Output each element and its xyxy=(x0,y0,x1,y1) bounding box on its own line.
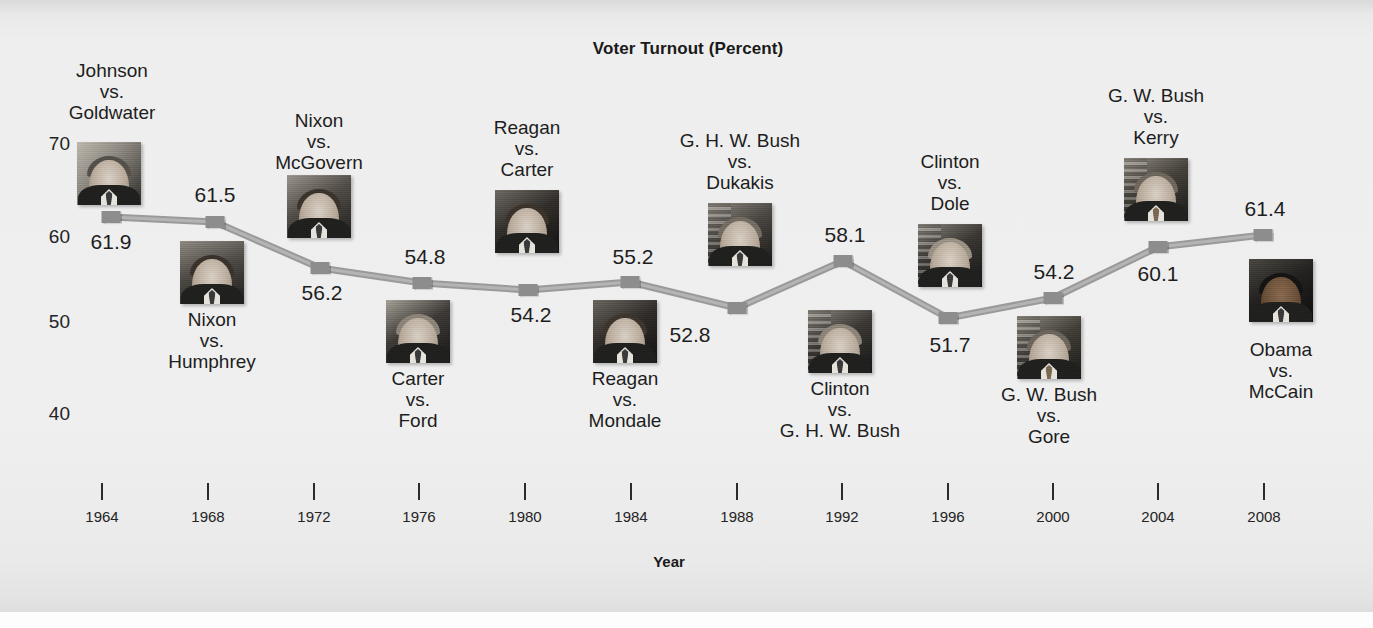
data-label-1972: 56.2 xyxy=(302,281,343,305)
data-label-1992: 58.1 xyxy=(825,223,866,247)
matchup-caption-1984: Reagan vs. Mondale xyxy=(589,368,662,431)
x-tick-label-1996: 1996 xyxy=(931,508,964,525)
matchup-caption-2008: Obama vs. McCain xyxy=(1249,339,1313,402)
data-label-2000: 54.2 xyxy=(1034,260,1075,284)
x-tickmark-2000 xyxy=(1052,483,1054,500)
x-tickmark-1988 xyxy=(736,483,738,500)
x-tickmark-1980 xyxy=(524,483,526,500)
matchup-caption-1996: Clinton vs. Dole xyxy=(920,151,979,214)
data-label-1996: 51.7 xyxy=(930,333,971,357)
x-tickmark-1976 xyxy=(418,483,420,500)
data-marker-2008 xyxy=(1254,229,1273,241)
portrait-1996-bill-clinton xyxy=(918,224,982,287)
x-tickmark-2004 xyxy=(1157,483,1159,500)
portrait-2000-george-w-bush xyxy=(1017,316,1081,379)
matchup-caption-1972: Nixon vs. McGovern xyxy=(275,110,363,173)
portrait-1976-jimmy-carter xyxy=(386,300,450,363)
data-label-2008: 61.4 xyxy=(1245,197,1286,221)
x-tick-label-2000: 2000 xyxy=(1036,508,1069,525)
x-tickmark-1984 xyxy=(630,483,632,500)
chart-plot-area: Voter Turnout (Percent) Year 70 60 50 40… xyxy=(0,0,1373,628)
data-marker-1964 xyxy=(102,211,121,223)
matchup-caption-1992: Clinton vs. G. H. W. Bush xyxy=(780,378,900,441)
x-tickmark-1964 xyxy=(101,483,103,500)
x-tick-label-1964: 1964 xyxy=(85,508,118,525)
portrait-1988-george-hw-bush xyxy=(708,203,772,266)
x-tick-label-1980: 1980 xyxy=(508,508,541,525)
data-label-1984: 55.2 xyxy=(613,245,654,269)
portrait-1992-bill-clinton xyxy=(808,310,872,373)
data-marker-1980 xyxy=(519,284,538,296)
x-tick-label-1988: 1988 xyxy=(720,508,753,525)
portrait-1968-richard-nixon xyxy=(180,241,244,304)
matchup-caption-2000: G. W. Bush vs. Gore xyxy=(1001,384,1097,447)
portrait-2008-barack-obama xyxy=(1249,259,1313,322)
data-marker-2000 xyxy=(1044,292,1063,304)
data-label-1976: 54.8 xyxy=(405,245,446,269)
x-tick-label-1992: 1992 xyxy=(825,508,858,525)
x-tick-label-1972: 1972 xyxy=(297,508,330,525)
portrait-1972-richard-nixon xyxy=(287,175,351,238)
matchup-caption-2004: G. W. Bush vs. Kerry xyxy=(1108,85,1204,148)
x-tick-label-1976: 1976 xyxy=(402,508,435,525)
data-marker-2004 xyxy=(1149,241,1168,253)
data-marker-1972 xyxy=(311,262,330,274)
x-tick-label-2008: 2008 xyxy=(1247,508,1280,525)
data-label-2004: 60.1 xyxy=(1138,262,1179,286)
data-label-1980: 54.2 xyxy=(511,303,552,327)
data-marker-1996 xyxy=(939,312,958,324)
matchup-caption-1968: Nixon vs. Humphrey xyxy=(168,309,256,372)
portrait-1980-ronald-reagan xyxy=(495,190,559,253)
portrait-2004-george-w-bush xyxy=(1124,158,1188,221)
matchup-caption-1988: G. H. W. Bush vs. Dukakis xyxy=(680,130,800,193)
x-tickmark-1992 xyxy=(841,483,843,500)
data-label-1964: 61.9 xyxy=(91,230,132,254)
matchup-caption-1976: Carter vs. Ford xyxy=(392,368,445,431)
data-marker-1984 xyxy=(621,276,640,288)
matchup-caption-1980: Reagan vs. Carter xyxy=(494,117,561,180)
matchup-caption-1964: Johnson vs. Goldwater xyxy=(69,60,156,123)
data-label-1968: 61.5 xyxy=(195,183,236,207)
x-tick-label-1984: 1984 xyxy=(614,508,647,525)
x-tickmark-1972 xyxy=(313,483,315,500)
x-tickmark-1996 xyxy=(947,483,949,500)
data-marker-1992 xyxy=(834,255,853,267)
x-tickmark-2008 xyxy=(1263,483,1265,500)
voter-turnout-chart-page: Voter Turnout (Percent) Year 70 60 50 40… xyxy=(0,0,1373,628)
portrait-1964-lyndon-johnson xyxy=(77,142,141,205)
data-marker-1968 xyxy=(206,216,225,228)
data-marker-1976 xyxy=(413,277,432,289)
x-tick-label-1968: 1968 xyxy=(191,508,224,525)
portrait-1984-ronald-reagan xyxy=(593,300,657,363)
data-label-1988: 52.8 xyxy=(670,323,711,347)
x-tick-label-2004: 2004 xyxy=(1141,508,1174,525)
data-marker-1988 xyxy=(728,302,747,314)
x-tickmark-1968 xyxy=(207,483,209,500)
